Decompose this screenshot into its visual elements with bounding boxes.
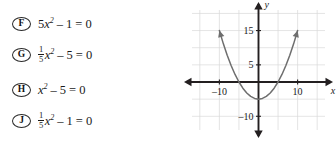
choice-letter-oval-g: G xyxy=(12,48,31,62)
question-figure: F 5x2 – 1 = 0 G 1 5 x2 – 5 = 0 xyxy=(0,0,336,147)
fraction-j: 1 5 xyxy=(38,111,44,129)
answer-choice-h[interactable]: H x2 – 5 = 0 xyxy=(12,79,85,101)
fraction-numerator-j: 1 xyxy=(38,111,44,120)
rhs-j: 0 xyxy=(86,115,92,128)
rhs-f: 0 xyxy=(85,18,91,31)
svg-text:–10: –10 xyxy=(238,111,254,122)
svg-text:15: 15 xyxy=(244,25,254,36)
constant-g: 5 xyxy=(67,49,73,62)
choice-equation-g: 1 5 x2 – 5 = 0 xyxy=(38,46,92,64)
equals-sign-g: = xyxy=(76,49,83,62)
minus-operator-f: – xyxy=(57,18,63,31)
choice-letter-oval-j: J xyxy=(12,114,31,128)
svg-text:x: x xyxy=(330,85,336,96)
exponent-h: 2 xyxy=(44,83,48,91)
svg-text:10: 10 xyxy=(293,86,303,97)
constant-h: 5 xyxy=(60,84,66,97)
minus-operator-g: – xyxy=(57,49,63,62)
choice-letter-oval-f: F xyxy=(12,17,31,31)
equals-sign-j: = xyxy=(76,115,83,128)
exponent-f: 2 xyxy=(50,17,54,25)
equals-sign-h: = xyxy=(69,84,76,97)
answer-choice-j[interactable]: J 1 5 x2 – 1 = 0 xyxy=(12,110,92,132)
minus-operator-h: – xyxy=(51,84,57,97)
axes xyxy=(184,2,333,138)
answer-choices: F 5x2 – 1 = 0 G 1 5 x2 – 5 = 0 xyxy=(0,0,168,147)
svg-text:5: 5 xyxy=(249,59,254,70)
constant-j: 1 xyxy=(67,115,73,128)
answer-choice-f[interactable]: F 5x2 – 1 = 0 xyxy=(12,13,92,35)
graph-svg: –1010155–10yx xyxy=(168,0,336,147)
exponent-g: 2 xyxy=(50,48,54,56)
answer-choice-g[interactable]: G 1 5 x2 – 5 = 0 xyxy=(12,44,92,66)
minus-operator-j: – xyxy=(57,115,63,128)
choice-equation-f: 5x2 – 1 = 0 xyxy=(38,18,92,31)
fraction-denominator-j: 5 xyxy=(38,120,44,130)
choice-equation-h: x2 – 5 = 0 xyxy=(38,84,85,97)
svg-text:y: y xyxy=(264,0,270,10)
rhs-g: 0 xyxy=(86,49,92,62)
exponent-j: 2 xyxy=(50,114,54,122)
choice-letter-oval-h: H xyxy=(12,83,31,97)
fraction-g: 1 5 xyxy=(38,45,44,63)
choice-equation-j: 1 5 x2 – 1 = 0 xyxy=(38,112,92,130)
svg-text:–10: –10 xyxy=(211,86,227,97)
rhs-h: 0 xyxy=(79,84,85,97)
fraction-denominator-g: 5 xyxy=(38,54,44,64)
parabola-graph: –1010155–10yx xyxy=(168,0,336,147)
equals-sign-f: = xyxy=(75,18,82,31)
constant-f: 1 xyxy=(66,18,72,31)
fraction-numerator-g: 1 xyxy=(38,45,44,54)
